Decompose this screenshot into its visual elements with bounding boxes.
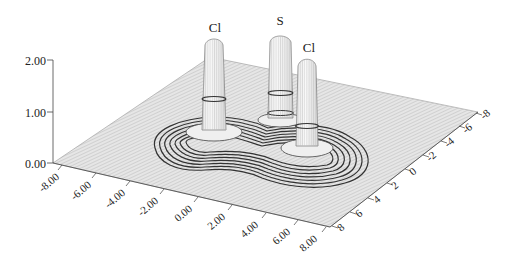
svg-text:8: 8	[335, 220, 347, 233]
z-axis: 2.00 1.00 0.00	[25, 54, 53, 171]
svg-text:4.00: 4.00	[238, 218, 261, 240]
svg-text:2.00: 2.00	[205, 210, 228, 232]
svg-text:4: 4	[371, 192, 383, 205]
svg-text:-8: -8	[478, 106, 493, 121]
svg-text:-2.00: -2.00	[135, 194, 161, 218]
svg-text:-8.00: -8.00	[36, 170, 62, 194]
peak-cl-right	[296, 59, 319, 146]
surface-plot: 2.00 1.00 0.00 -8.00 -6.00 -4.00 -2.00 0…	[0, 0, 509, 256]
svg-text:0.00: 0.00	[172, 202, 195, 224]
z-tick-label: 2.00	[25, 54, 46, 68]
peak-label-cl-left: Cl	[209, 20, 222, 35]
svg-text:0: 0	[407, 164, 419, 177]
plot-svg: 2.00 1.00 0.00 -8.00 -6.00 -4.00 -2.00 0…	[0, 0, 509, 256]
svg-text:2: 2	[389, 179, 401, 192]
svg-text:6: 6	[353, 206, 365, 219]
peak-label-cl-right: Cl	[303, 40, 316, 55]
svg-text:-6.00: -6.00	[68, 178, 94, 202]
svg-text:6.00: 6.00	[270, 225, 293, 247]
z-tick-label: 1.00	[25, 106, 46, 120]
peak-cl-left	[202, 39, 226, 130]
peak-s	[268, 36, 294, 118]
svg-text:-4.00: -4.00	[102, 186, 128, 210]
peak-label-s: S	[276, 13, 283, 28]
svg-text:8.00: 8.00	[297, 232, 320, 254]
z-tick-label: 0.00	[25, 157, 46, 171]
